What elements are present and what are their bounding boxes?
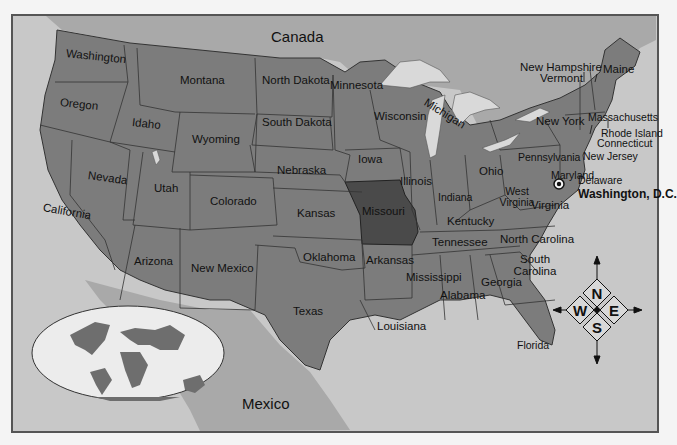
compass-east: E xyxy=(604,303,624,318)
label-oklahoma: Oklahoma xyxy=(303,252,355,264)
label-canada: Canada xyxy=(271,29,324,44)
compass-south: S xyxy=(587,320,607,335)
label-kentucky: Kentucky xyxy=(447,216,494,228)
label-south-dakota: South Dakota xyxy=(262,117,332,129)
label-colorado: Colorado xyxy=(210,196,257,208)
label-missouri: Missouri xyxy=(362,206,405,218)
label-georgia: Georgia xyxy=(481,277,522,289)
label-new-york: New York xyxy=(536,116,585,128)
label-illinois: Illinois xyxy=(400,176,432,188)
label-indiana: Indiana xyxy=(438,192,472,203)
compass-north: N xyxy=(587,286,607,301)
label-washington-dc: Washington, D.C. xyxy=(578,188,677,200)
label-north-dakota: North Dakota xyxy=(262,75,330,87)
label-mexico: Mexico xyxy=(242,396,290,411)
label-arkansas: Arkansas xyxy=(366,255,414,267)
compass-west: W xyxy=(570,303,590,318)
label-tennessee: Tennessee xyxy=(432,237,488,249)
label-ohio: Ohio xyxy=(479,166,503,178)
label-south-carolina: South Carolina xyxy=(508,253,562,277)
label-new-mexico: New Mexico xyxy=(191,263,254,275)
label-iowa: Iowa xyxy=(358,154,382,166)
label-mississippi: Mississippi xyxy=(406,272,462,284)
label-utah: Utah xyxy=(154,183,178,195)
label-florida: Florida xyxy=(517,340,549,351)
label-wisconsin: Wisconsin xyxy=(374,111,426,123)
label-pennsylvania: Pennsylvania xyxy=(518,152,580,163)
label-new-hampshire: New Hampshire xyxy=(520,62,602,74)
label-north-carolina: North Carolina xyxy=(500,234,574,246)
label-alabama: Alabama xyxy=(440,290,485,302)
label-kansas: Kansas xyxy=(297,208,335,220)
label-delaware: Delaware xyxy=(578,175,622,186)
label-new-jersey: New Jersey xyxy=(583,151,638,162)
label-maine: Maine xyxy=(603,64,634,76)
label-vermont: Vermont xyxy=(540,73,583,85)
label-massachusetts: Massachusetts xyxy=(588,112,658,123)
world-globe-inset xyxy=(32,306,224,401)
label-wyoming: Wyoming xyxy=(192,134,240,146)
label-montana: Montana xyxy=(180,75,225,87)
label-west-virginia: West Virginia xyxy=(497,186,537,208)
label-rhode-island: Rhode Island xyxy=(601,128,663,139)
label-louisiana: Louisiana xyxy=(377,321,426,333)
label-texas: Texas xyxy=(293,306,323,318)
label-arizona: Arizona xyxy=(134,256,173,268)
label-minnesota: Minnesota xyxy=(330,80,383,92)
label-nebraska: Nebraska xyxy=(277,165,326,177)
label-connecticut: Connecticut xyxy=(597,138,652,149)
